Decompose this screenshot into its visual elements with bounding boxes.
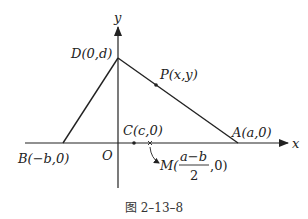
svg-text:2: 2 (190, 168, 198, 183)
label-d: D(0,d) (70, 46, 112, 61)
figure-caption: 图 2–13–8 (125, 201, 183, 215)
point-p (154, 83, 158, 87)
label-c: C(c,0) (123, 123, 163, 138)
x-axis-label: x (292, 136, 300, 151)
y-axis-label: y (113, 10, 122, 25)
segment-bd (63, 58, 118, 143)
geometry-diagram: y x O D(0,d) P(x,y) A(a,0) B(−b,0) C(c,0… (0, 0, 308, 219)
label-p: P(x,y) (159, 67, 198, 82)
svg-text:,0): ,0) (210, 158, 227, 173)
origin-label: O (102, 148, 113, 163)
point-c (132, 141, 136, 145)
svg-text:a−b: a−b (180, 149, 207, 164)
label-m: M( a−b 2 ,0) (159, 149, 227, 183)
label-a: A(a,0) (231, 125, 272, 140)
label-b: B(−b,0) (17, 151, 69, 166)
svg-text:M(: M( (159, 158, 179, 173)
m-pointer-arrow (150, 147, 159, 163)
